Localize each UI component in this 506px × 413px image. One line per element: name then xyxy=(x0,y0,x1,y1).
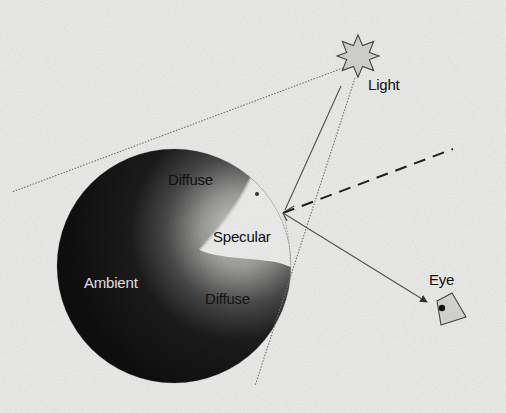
paper-texture xyxy=(0,0,506,413)
lighting-diagram: Light Diffuse Specular Ambient Diffuse E… xyxy=(0,0,506,413)
diagram-canvas: Light Diffuse Specular Ambient Diffuse E… xyxy=(0,0,506,413)
